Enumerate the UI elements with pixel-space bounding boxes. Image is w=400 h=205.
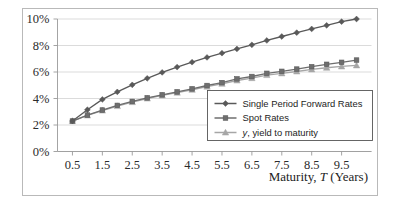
data-point-square [294,67,299,72]
y-tick-label: 8% [33,39,50,53]
data-point-square [220,80,225,85]
x-tick-label: 6.5 [244,158,260,172]
y-tick-label: 0% [33,145,50,159]
data-point-diamond [249,42,255,48]
data-point-square [250,74,255,79]
x-tick-label: 3.5 [154,158,170,172]
data-point-square [145,96,150,101]
data-point-square [175,90,180,95]
data-point-square [265,71,270,76]
x-tick-label: 2.5 [124,158,140,172]
data-point-square [115,103,120,108]
x-axis-title: Maturity, T (Years) [269,169,368,184]
data-point-square [235,77,240,82]
legend-item-label: Single Period Forward Rates [243,98,363,109]
data-point-square [160,92,165,97]
data-point-square [130,99,135,104]
data-point-square [205,83,210,88]
x-tick-label: 5.5 [214,158,230,172]
data-point-diamond [339,19,345,25]
data-point-diamond [264,38,270,44]
x-tick-label: 0.5 [65,158,81,172]
yield-curve-chart: 0%2%4%6%8%10% 0.51.52.53.54.55.56.57.58.… [0,0,400,205]
data-point-diamond [294,30,300,36]
data-point-square [190,87,195,92]
data-point-diamond [129,82,135,88]
legend-item-label: Spot Rates [243,112,290,123]
y-tick-label: 2% [33,118,50,132]
y-tick-label: 4% [33,92,50,106]
data-point-diamond [144,75,150,81]
y-tick-label: 6% [33,65,50,79]
chart-legend[interactable]: Single Period Forward RatesSpot Ratesy, … [208,91,373,141]
data-point-square [354,58,359,63]
data-point-diamond [309,26,315,32]
data-point-square [309,64,314,69]
data-point-diamond [219,50,225,56]
data-point-diamond [324,22,330,28]
data-point-square [339,60,344,65]
chart-figure: 0%2%4%6%8%10% 0.51.52.53.54.55.56.57.58.… [0,0,400,205]
data-point-square [324,62,329,67]
data-point-diamond [279,34,285,40]
data-point-diamond [159,69,165,75]
data-point-square [279,69,284,74]
x-tick-label: 4.5 [184,158,200,172]
legend-item-label: y, yield to maturity [242,127,319,138]
data-point-diamond [204,55,210,61]
data-point-diamond [354,16,360,22]
y-tick-label: 10% [27,12,50,26]
data-point-diamond [189,59,195,65]
data-point-diamond [234,46,240,52]
x-tick-label: 1.5 [95,158,111,172]
data-point-legend-square [223,116,228,121]
data-point-square [85,113,90,118]
x-axis-title-text: Maturity, T (Years) [269,169,368,184]
data-point-diamond [114,89,120,95]
y-tick-labels-group: 0%2%4%6%8%10% [27,12,50,159]
data-point-square [100,108,105,113]
data-point-diamond [174,64,180,70]
